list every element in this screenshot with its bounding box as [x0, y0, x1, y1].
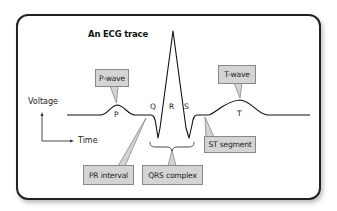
x-axis-arrow-icon	[70, 140, 74, 143]
p-wave-pointer	[110, 86, 118, 103]
st-segment-callout: ST segment	[204, 136, 256, 153]
st-segment-pointer	[205, 117, 214, 137]
r-letter: R	[169, 102, 174, 111]
diagram-title: An ECG trace	[88, 29, 148, 39]
t-letter: T	[237, 109, 242, 118]
t-wave-callout: T-wave	[218, 65, 256, 84]
qrs-complex-callout: QRS complex	[142, 165, 203, 185]
s-letter: S	[184, 102, 189, 111]
pr-interval-pointer	[118, 118, 146, 166]
p-wave-callout: P-wave	[95, 69, 129, 87]
x-axis-label: Time	[78, 136, 98, 145]
q-letter: Q	[150, 102, 156, 111]
t-wave-pointer	[234, 83, 242, 98]
y-axis-label: Voltage	[28, 97, 58, 106]
pr-interval-callout: PR interval	[83, 165, 134, 185]
y-axis-arrow-icon	[41, 112, 44, 116]
qrs-brace	[150, 142, 194, 151]
axes	[41, 112, 75, 143]
p-letter: P	[114, 110, 119, 119]
